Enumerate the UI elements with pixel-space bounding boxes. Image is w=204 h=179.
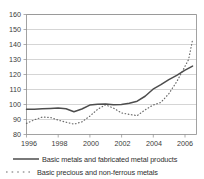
x-tick-2000: 2000	[83, 139, 99, 148]
legend-solid-line-icon	[12, 155, 40, 163]
gridlines	[27, 15, 197, 120]
legend-label-basic-precious-metals: Basic precious and non-ferrous metals	[37, 168, 158, 177]
y-tick-160: 160	[9, 10, 21, 19]
y-tick-110: 110	[10, 85, 21, 94]
chart-legend: Basic metals and fabricated metal produc…	[0, 152, 204, 179]
y-tick-150: 150	[9, 25, 21, 34]
y-tick-90: 90	[13, 115, 21, 124]
y-axis-ticks	[24, 15, 27, 135]
y-tick-100: 100	[9, 100, 21, 109]
y-tick-140: 140	[9, 40, 21, 49]
series-basic-precious-non-ferrous-metals	[27, 40, 193, 124]
legend-item-basic-precious-metals: Basic precious and non-ferrous metals	[0, 166, 204, 178]
y-tick-130: 130	[9, 55, 21, 64]
x-axis-labels: 1996 1998 2000 2002 2004 2006	[21, 139, 193, 148]
x-tick-2004: 2004	[146, 139, 162, 148]
y-tick-120: 120	[9, 70, 21, 79]
price-index-line-chart: 160 150 140 130 120 110 100 90 80 1996 1…	[0, 0, 204, 179]
x-tick-1996: 1996	[21, 139, 37, 148]
legend-item-basic-metals: Basic metals and fabricated metal produc…	[0, 153, 204, 165]
y-axis-labels: 160 150 140 130 120 110 100 90 80	[9, 10, 21, 139]
x-axis-ticks	[27, 135, 186, 138]
chart-plot-area: 160 150 140 130 120 110 100 90 80 1996 1…	[0, 0, 204, 152]
legend-label-basic-metals: Basic metals and fabricated metal produc…	[42, 155, 177, 164]
series-basic-metals-fabricated-products	[27, 66, 193, 112]
x-tick-1998: 1998	[52, 139, 68, 148]
y-tick-80: 80	[13, 130, 21, 139]
legend-dotted-line-icon	[5, 168, 35, 176]
x-tick-2002: 2002	[115, 139, 131, 148]
x-tick-2006: 2006	[177, 139, 193, 148]
